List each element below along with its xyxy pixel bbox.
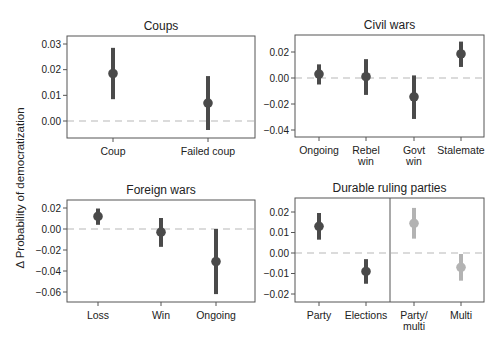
y-tick-label: −0.02 — [264, 289, 290, 300]
y-tick-label: −0.04 — [264, 125, 290, 136]
point-estimate-marker — [156, 227, 166, 237]
y-tick-label: 0.02 — [42, 203, 62, 214]
x-category-label: Win — [152, 309, 170, 321]
y-tick-label: −0.02 — [36, 245, 62, 256]
y-tick-label: 0.01 — [42, 90, 62, 101]
point-estimate-marker — [93, 212, 103, 222]
point-estimate-marker — [314, 69, 324, 79]
x-category-label: Party — [307, 309, 332, 321]
y-tick-label: 0.02 — [42, 64, 62, 75]
y-tick-label: 0.00 — [42, 116, 62, 127]
point-estimate-marker — [409, 92, 419, 102]
y-tick-label: 0.02 — [270, 47, 290, 58]
x-category-label: Ongoing — [196, 309, 236, 321]
point-estimate-marker — [361, 72, 371, 82]
y-axis-label: Δ Probability of democratization — [14, 107, 26, 268]
panel-frame — [295, 35, 484, 137]
y-tick-label: 0.00 — [270, 248, 290, 259]
x-category-label: Failed coup — [181, 145, 235, 157]
panel-frame — [67, 36, 255, 138]
y-tick-label: −0.06 — [36, 287, 62, 298]
panel-title: Coups — [144, 19, 179, 33]
y-tick-label: 0.00 — [42, 224, 62, 235]
x-category-label: multi — [403, 320, 425, 332]
x-category-label: win — [357, 155, 374, 167]
panel-durable-ruling-parties: Durable ruling parties−0.02−0.010.000.01… — [264, 181, 484, 332]
panel-title: Foreign wars — [126, 183, 195, 197]
y-tick-label: 0.00 — [270, 73, 290, 84]
point-estimate-marker — [361, 267, 371, 277]
point-estimate-marker — [211, 257, 221, 267]
point-estimate-marker — [456, 49, 466, 59]
panel-title: Durable ruling parties — [332, 181, 446, 195]
y-tick-label: −0.04 — [36, 266, 62, 277]
panel-civil-wars: Civil wars−0.04−0.020.000.02OngoingRebel… — [264, 18, 485, 167]
panel-foreign-wars: Foreign wars−0.06−0.04−0.020.000.02LossW… — [36, 183, 255, 321]
x-category-label: win — [405, 155, 422, 167]
y-tick-label: −0.02 — [264, 99, 290, 110]
x-category-label: Elections — [345, 309, 388, 321]
point-estimate-marker — [203, 98, 213, 108]
panel-title: Civil wars — [364, 18, 415, 32]
y-tick-label: 0.01 — [270, 227, 290, 238]
x-category-label: Stalemate — [437, 144, 484, 156]
point-estimate-marker — [409, 218, 419, 228]
point-estimate-marker — [108, 69, 118, 79]
point-estimate-marker — [456, 263, 466, 273]
point-estimate-marker — [314, 222, 324, 232]
x-category-label: Ongoing — [299, 144, 339, 156]
panel-coups: Coups0.000.010.020.03CoupFailed coup — [42, 19, 255, 157]
y-tick-label: −0.01 — [264, 268, 290, 279]
x-category-label: Multi — [450, 309, 472, 321]
x-category-label: Loss — [87, 309, 109, 321]
coefficient-plot-figure: Δ Probability of democratization Coups0.… — [0, 0, 501, 342]
y-tick-label: 0.02 — [270, 207, 290, 218]
y-tick-label: 0.03 — [42, 39, 62, 50]
x-category-label: Coup — [100, 145, 125, 157]
